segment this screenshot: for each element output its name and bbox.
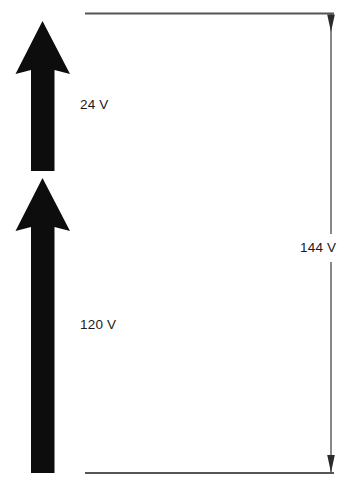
upper-voltage-arrow xyxy=(16,21,71,171)
dimension-arrowhead-top-icon xyxy=(327,15,335,33)
voltage-diagram-figure: 24 V 120 V 144 V xyxy=(0,0,362,484)
upper-arrow-voltage-label: 24 V xyxy=(80,98,109,112)
dimension-arrowhead-bottom-icon xyxy=(327,455,335,473)
total-dimension-voltage-label: 144 V xyxy=(300,241,336,255)
lower-arrow-voltage-label: 120 V xyxy=(80,318,116,332)
cropped-caption-text xyxy=(0,478,362,484)
lower-voltage-arrow xyxy=(16,178,71,473)
